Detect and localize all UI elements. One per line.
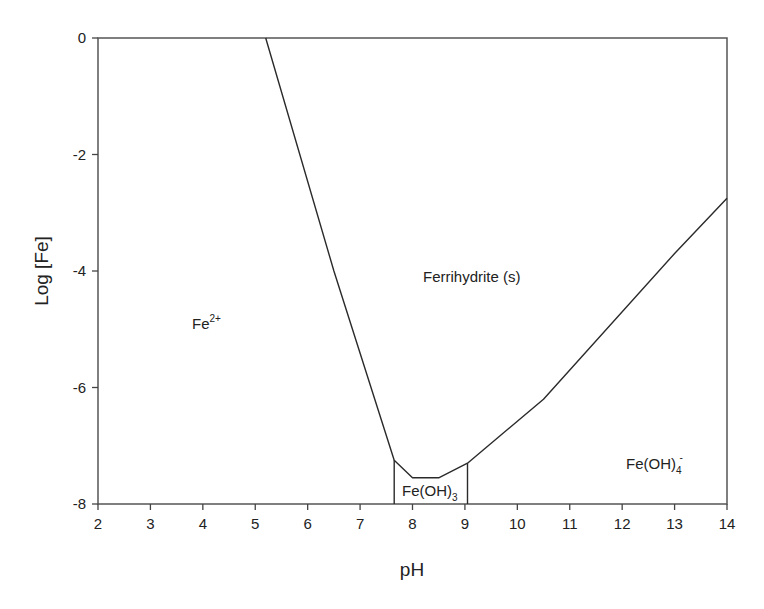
x-tick-label: 13 <box>666 515 683 532</box>
x-tick-label: 8 <box>408 515 416 532</box>
y-tick-label: 0 <box>78 29 86 46</box>
feoh3-text: Fe(OH) <box>402 482 452 499</box>
pourbaix-chart: 234567891011121314 0-2-4-6-8 pH Log [Fe]… <box>0 0 764 609</box>
boundary-line <box>266 38 727 478</box>
y-axis-title: Log [Fe] <box>31 236 52 306</box>
region-label-feoh4: Fe(OH)4- <box>626 452 683 476</box>
y-axis-ticks: 0-2-4-6-8 <box>73 29 98 512</box>
plot-frame <box>98 38 727 504</box>
x-tick-label: 11 <box>562 515 578 532</box>
feoh4-subscript: 4 <box>676 465 682 476</box>
region-label-ferrihydrite: Ferrihydrite (s) <box>423 268 521 285</box>
x-tick-label: 2 <box>94 515 102 532</box>
x-tick-label: 12 <box>614 515 631 532</box>
y-tick-label: -4 <box>73 262 86 279</box>
x-tick-label: 14 <box>719 515 736 532</box>
x-tick-label: 6 <box>303 515 311 532</box>
feoh4-text: Fe(OH) <box>626 455 676 472</box>
y-tick-label: -6 <box>73 379 86 396</box>
x-tick-label: 7 <box>356 515 364 532</box>
y-tick-label: -2 <box>73 146 86 163</box>
x-tick-label: 10 <box>509 515 526 532</box>
x-tick-label: 4 <box>199 515 207 532</box>
region-label-fe2: Fe2+ <box>192 313 221 332</box>
fe2-charge: 2+ <box>210 313 222 324</box>
x-axis-ticks: 234567891011121314 <box>94 504 736 532</box>
feoh3-subscript: 3 <box>452 492 458 503</box>
feoh4-charge: - <box>680 452 683 463</box>
x-axis-title: pH <box>400 559 424 580</box>
x-tick-label: 9 <box>461 515 469 532</box>
region-label-feoh3: Fe(OH)3 <box>402 482 458 503</box>
y-tick-label: -8 <box>73 495 86 512</box>
fe2-text: Fe <box>192 315 210 332</box>
x-tick-label: 5 <box>251 515 259 532</box>
x-tick-label: 3 <box>146 515 154 532</box>
